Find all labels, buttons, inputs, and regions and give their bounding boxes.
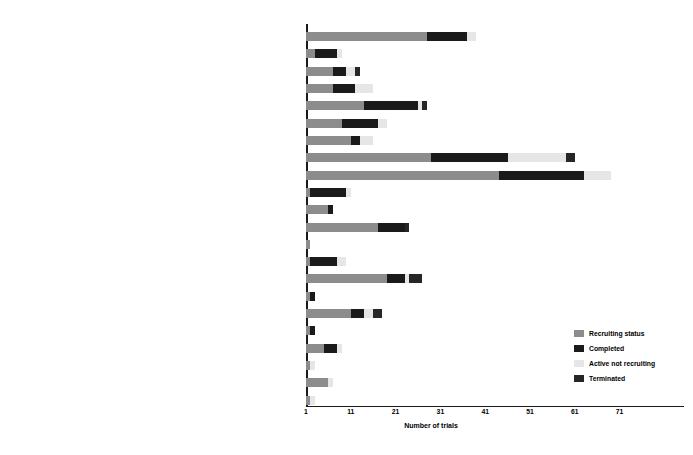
bar-segment — [306, 49, 315, 58]
legend-item[interactable]: Terminated — [574, 371, 655, 386]
x-tick-label: 51 — [526, 408, 534, 415]
bar-segment — [306, 309, 351, 318]
bar-segment — [315, 49, 337, 58]
x-axis-line — [306, 406, 684, 408]
x-axis-ticks: 111213141516171 — [306, 408, 693, 422]
bar-segment — [333, 84, 355, 93]
bar-segment — [351, 136, 360, 145]
bar-segment — [306, 274, 387, 283]
legend-item[interactable]: Recruiting status — [574, 326, 655, 341]
bar-segment — [373, 309, 382, 318]
bar-segment — [306, 136, 351, 145]
x-tick-label: 31 — [437, 408, 445, 415]
bar-segment — [467, 32, 476, 41]
bar-segment — [310, 292, 314, 301]
bar-segment — [306, 32, 427, 41]
bar-segment — [405, 223, 409, 232]
bar-segment — [306, 344, 324, 353]
bar-segment — [306, 171, 499, 180]
legend-swatch-icon — [574, 345, 584, 352]
x-tick-label: 11 — [347, 408, 354, 415]
bar-segment — [355, 67, 359, 76]
legend-label: Active not recruiting — [589, 360, 655, 367]
bar-segment — [566, 153, 575, 162]
bar-segment — [508, 153, 566, 162]
bar-segment — [346, 67, 355, 76]
bar-segment — [364, 309, 373, 318]
legend-swatch-icon — [574, 330, 584, 337]
x-tick-label: 1 — [304, 408, 308, 415]
bar-segment — [378, 119, 387, 128]
legend-label: Completed — [589, 345, 624, 352]
bar-segment — [342, 119, 378, 128]
bar-segment — [306, 84, 333, 93]
bar-segment — [310, 326, 314, 335]
bar-segment — [337, 257, 346, 266]
x-axis-title: Number of trials — [306, 422, 556, 429]
legend-label: Terminated — [589, 375, 625, 382]
bar-segment — [310, 361, 314, 370]
bar-segment — [337, 49, 341, 58]
x-tick-label: 71 — [616, 408, 624, 415]
bar-segment — [306, 240, 310, 249]
bar-segment — [364, 101, 418, 110]
bar-segment — [499, 171, 584, 180]
x-tick-label: 61 — [571, 408, 579, 415]
bar-segment — [351, 309, 364, 318]
bar-segment — [306, 378, 328, 387]
legend-swatch-icon — [574, 360, 584, 367]
bar-segment — [306, 101, 364, 110]
bar-segment — [306, 67, 333, 76]
bar-segment — [378, 223, 405, 232]
horizontal-stacked-bar-chart: COVID-19UNORTHODOX CLINICAL TRIALSOTHERS… — [0, 0, 693, 455]
bar-segment — [422, 101, 426, 110]
legend-swatch-icon — [574, 375, 584, 382]
bar-segment — [387, 274, 405, 283]
category-axis-labels: COVID-19UNORTHODOX CLINICAL TRIALSOTHERS… — [0, 0, 300, 400]
legend-label: Recruiting status — [589, 330, 645, 337]
bar-segment — [310, 396, 314, 405]
bar-segment — [584, 171, 611, 180]
x-tick-label: 41 — [481, 408, 489, 415]
bar-segment — [431, 153, 507, 162]
bar-segment — [409, 274, 422, 283]
bar-segment — [360, 136, 373, 145]
bar-segment — [324, 344, 337, 353]
bar-segment — [355, 84, 373, 93]
bar-segment — [333, 67, 346, 76]
bar-segment — [346, 188, 350, 197]
bar-segment — [306, 223, 378, 232]
x-tick-label: 21 — [392, 408, 400, 415]
bar-segment — [427, 32, 467, 41]
bar-segment — [306, 119, 342, 128]
bar-segment — [337, 344, 341, 353]
bar-segment — [310, 257, 337, 266]
legend-item[interactable]: Completed — [574, 341, 655, 356]
bar-segment — [328, 205, 332, 214]
bar-segment — [306, 205, 328, 214]
bar-segment — [310, 188, 346, 197]
bar-segment — [328, 378, 332, 387]
bar-segment — [306, 153, 431, 162]
chart-legend: Recruiting statusCompletedActive not rec… — [574, 326, 655, 386]
legend-item[interactable]: Active not recruiting — [574, 356, 655, 371]
